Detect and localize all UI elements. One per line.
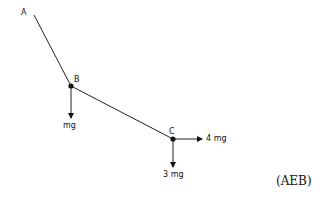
- point-a-label: A: [21, 9, 26, 17]
- force-label-4mg: 4 mg: [206, 135, 227, 143]
- point-b-label: B: [74, 76, 80, 84]
- source-citation: (AEB): [276, 174, 312, 188]
- string-segment-bc: [71, 86, 173, 139]
- point-c-label: C: [169, 128, 175, 136]
- force-label-3mg: 3 mg: [163, 171, 184, 179]
- string-segment-ab: [34, 15, 71, 86]
- force-label-mg: mg: [63, 122, 76, 130]
